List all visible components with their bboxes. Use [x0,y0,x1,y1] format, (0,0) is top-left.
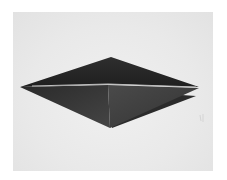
faint-mark [200,114,203,122]
bottom-right-face [108,85,199,128]
origami-diamond [0,0,227,180]
bottom-left-face [20,85,110,128]
top-flap [20,57,199,87]
